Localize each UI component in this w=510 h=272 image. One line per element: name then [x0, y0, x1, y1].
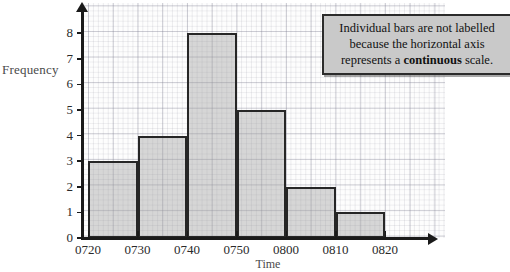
y-axis-tick-label: 4: [55, 129, 73, 142]
y-axis-tick-label: 2: [55, 180, 73, 193]
histogram-bar: [187, 33, 237, 238]
y-axis-tick: [77, 135, 83, 137]
x-axis-tick-label: 0750: [211, 243, 263, 256]
y-axis-tick-label: 8: [55, 26, 73, 39]
histogram-bar: [336, 212, 386, 238]
annotation-line-1: Individual bars are not labelled: [330, 20, 504, 36]
x-axis-tick: [286, 231, 288, 240]
y-axis-tick-label: 1: [55, 205, 73, 218]
histogram-bar: [237, 110, 287, 238]
y-axis-tick: [77, 160, 83, 162]
x-axis-tick: [137, 231, 139, 240]
y-axis-tick: [77, 109, 83, 111]
histogram-bar: [286, 187, 336, 238]
x-axis-tick-label: 0800: [260, 243, 312, 256]
y-axis-tick: [77, 212, 83, 214]
y-axis-tick: [77, 186, 83, 188]
y-axis-tick: [77, 84, 83, 86]
x-axis-tick: [236, 231, 238, 240]
y-axis-tick-label: 3: [55, 154, 73, 167]
y-axis-tick: [77, 237, 83, 239]
annotation-line-3-prefix: represents a: [341, 53, 403, 67]
x-axis-tick: [187, 231, 189, 240]
y-axis-title: Frequency: [2, 62, 59, 78]
x-axis-tick-label: 0820: [359, 243, 411, 256]
annotation-line-3-tail: scale.: [462, 53, 493, 67]
y-axis-tick: [77, 32, 83, 34]
x-axis-tick: [88, 231, 90, 240]
y-axis-arrow-icon: [76, 2, 88, 12]
x-axis-tick: [385, 231, 387, 240]
x-axis-line: [81, 237, 431, 240]
x-axis-tick-label: 0730: [112, 243, 164, 256]
x-axis-tick-label: 0720: [62, 243, 114, 256]
x-axis-arrow-icon: [428, 233, 438, 245]
annotation-callout: Individual bars are not labelled because…: [322, 14, 510, 75]
histogram-bar: [88, 161, 138, 238]
histogram-bar: [138, 136, 188, 238]
annotation-line-2: because the horizontal axis: [330, 36, 504, 52]
x-axis-tick-label: 0740: [161, 243, 213, 256]
y-axis-tick-label: 5: [55, 103, 73, 116]
annotation-emphasis-word: continuous: [403, 53, 461, 67]
annotation-line-3: represents a continuous scale.: [330, 52, 504, 68]
x-axis-tick-label: 0810: [310, 243, 362, 256]
x-axis-tick: [335, 231, 337, 240]
x-axis-title: Time: [228, 257, 308, 272]
histogram-chart: 0 1 2 3 4 5 6 7 8 0720 0730 0740 0750 08…: [0, 0, 510, 272]
y-axis-tick: [77, 58, 83, 60]
y-axis-tick-label: 6: [55, 77, 73, 90]
y-axis-line: [81, 9, 84, 239]
